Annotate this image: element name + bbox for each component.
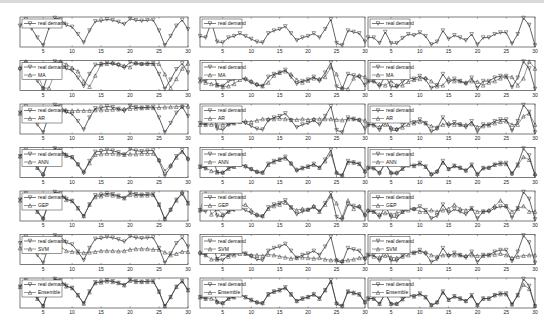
subplot-series-2-ensemble: 51015202530real demandEnsemble (198, 278, 368, 315)
x-tick-label: 10 (69, 309, 75, 315)
forecast-comparison-figure: 51015202530real demand51015202530real de… (0, 0, 544, 322)
x-tick-label: 5 (221, 179, 224, 185)
legend-label-real-demand: real demand (218, 20, 246, 26)
subplot-series-1-gep: 51015202530real demandGEP (18, 190, 191, 228)
legend-label-model: AR (386, 115, 393, 121)
x-tick-label: 10 (248, 222, 254, 228)
x-tick-label: 5 (390, 92, 393, 98)
x-tick-label: 15 (277, 179, 283, 185)
x-tick-label: 20 (475, 222, 481, 228)
x-tick-label: 15 (98, 48, 104, 54)
x-tick-label: 5 (390, 48, 393, 54)
x-tick-label: 5 (390, 222, 393, 228)
legend-label-real-demand: real demand (38, 64, 66, 70)
x-tick-label: 10 (248, 135, 254, 141)
x-tick-label: 30 (185, 179, 191, 185)
x-tick-label: 30 (532, 266, 538, 272)
x-tick-label: 10 (248, 309, 254, 315)
x-tick-label: 15 (277, 92, 283, 98)
x-tick-label: 10 (248, 48, 254, 54)
x-tick-label: 25 (156, 179, 162, 185)
legend-label-real-demand: real demand (218, 151, 246, 157)
legend: real demandMA (202, 63, 246, 80)
legend: real demandMA (22, 63, 66, 80)
x-tick-label: 10 (417, 135, 423, 141)
x-tick-label: 30 (362, 92, 368, 98)
legend: real demandAR (22, 106, 66, 123)
x-tick-label: 5 (390, 179, 393, 185)
legend-label-real-demand: real demand (386, 151, 414, 157)
legend: real demandSVM (22, 237, 66, 254)
legend: real demandAR (370, 106, 414, 123)
subplot-series-2-svm: 51015202530real demandSVM (198, 235, 368, 272)
x-tick-label: 10 (69, 179, 75, 185)
x-tick-label: 30 (185, 92, 191, 98)
x-tick-label: 5 (221, 309, 224, 315)
legend: real demandANN (370, 150, 414, 167)
legend: real demandEnsemble (370, 280, 414, 297)
x-tick-label: 15 (446, 135, 452, 141)
x-tick-label: 25 (156, 48, 162, 54)
legend: real demandAR (202, 106, 246, 123)
x-tick-label: 10 (417, 92, 423, 98)
x-tick-label: 15 (446, 309, 452, 315)
x-tick-label: 25 (156, 266, 162, 272)
legend-label-model: SVM (218, 246, 229, 252)
x-tick-label: 25 (503, 266, 509, 272)
x-tick-label: 30 (185, 309, 191, 315)
subplot-series-1-ensemble: 51015202530real demandEnsemble (18, 277, 191, 315)
x-tick-label: 30 (362, 179, 368, 185)
x-tick-label: 20 (475, 309, 481, 315)
legend-label-real-demand: real demand (38, 107, 66, 113)
x-tick-label: 5 (42, 92, 45, 98)
x-tick-label: 20 (305, 179, 311, 185)
subplot-series-1-real-only: 51015202530real demand (18, 16, 191, 54)
x-tick-label: 15 (277, 222, 283, 228)
x-tick-label: 5 (390, 135, 393, 141)
x-tick-label: 30 (185, 266, 191, 272)
x-tick-label: 20 (305, 222, 311, 228)
x-tick-label: 25 (334, 266, 340, 272)
subplot-series-1-svm: 51015202530real demandSVM (18, 234, 191, 272)
x-tick-label: 25 (503, 222, 509, 228)
legend-label-model: ANN (38, 159, 49, 165)
x-tick-label: 10 (248, 179, 254, 185)
legend-label-model: Ensemble (38, 289, 60, 295)
x-tick-label: 5 (42, 179, 45, 185)
x-tick-label: 25 (334, 48, 340, 54)
legend: real demand (22, 19, 66, 28)
x-tick-label: 20 (127, 309, 133, 315)
x-tick-label: 5 (221, 266, 224, 272)
x-tick-label: 20 (127, 48, 133, 54)
x-tick-label: 25 (503, 48, 509, 54)
legend-label-model: SVM (386, 246, 397, 252)
x-tick-label: 20 (305, 92, 311, 98)
x-tick-label: 5 (42, 222, 45, 228)
x-tick-label: 20 (127, 92, 133, 98)
x-tick-label: 30 (362, 222, 368, 228)
x-tick-label: 15 (98, 135, 104, 141)
subplot-series-2-gep: 51015202530real demandGEP (198, 191, 368, 228)
legend-label-real-demand: real demand (386, 64, 414, 70)
subplot-series-3-ensemble: 51015202530real demandEnsemble (366, 277, 538, 315)
x-tick-label: 25 (334, 222, 340, 228)
x-tick-label: 15 (446, 48, 452, 54)
legend-label-model: SVM (38, 246, 49, 252)
x-tick-label: 20 (127, 222, 133, 228)
legend-label-real-demand: real demand (218, 238, 246, 244)
x-tick-label: 15 (446, 179, 452, 185)
legend-label-real-demand: real demand (38, 151, 66, 157)
x-tick-label: 25 (334, 135, 340, 141)
x-tick-label: 15 (446, 266, 452, 272)
x-tick-label: 30 (532, 48, 538, 54)
x-tick-label: 25 (156, 222, 162, 228)
x-tick-label: 20 (305, 48, 311, 54)
x-tick-label: 10 (417, 48, 423, 54)
legend: real demandANN (202, 150, 246, 167)
legend-label-model: Ensemble (386, 289, 408, 295)
legend: real demandMA (370, 63, 414, 80)
subplot-series-2-ma: 51015202530real demandMA (198, 61, 368, 98)
legend-label-model: GEP (218, 202, 229, 208)
legend-label-real-demand: real demand (38, 281, 66, 287)
x-tick-label: 30 (532, 135, 538, 141)
